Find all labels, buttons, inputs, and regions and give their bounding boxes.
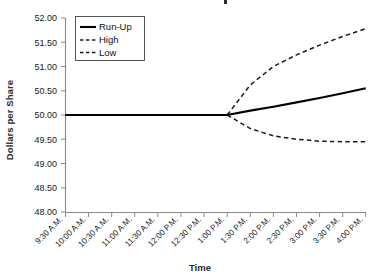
x-tick-labels: 9:30 A.M. 10:00 A.M. 10:30 A.M. 11:00 A.… [34,215,365,249]
chart-container: Dollars per Share 52.00 51.50 51.00 50.5… [0,0,374,280]
y-tick-label: 49.50 [34,135,57,145]
y-axis: 52.00 51.50 51.00 50.50 50.00 49.50 49.0… [34,13,65,217]
y-tick-labels: 52.00 51.50 51.00 50.50 50.00 49.50 49.0… [34,13,57,217]
x-axis-title-text: Time [189,262,211,273]
series-line-low [66,115,366,142]
line-chart: Dollars per Share 52.00 51.50 51.00 50.5… [0,0,374,280]
title-remnant [224,0,227,4]
y-tick-label: 52.00 [34,13,57,23]
y-tick-label: 48.50 [34,183,57,193]
legend-label-high: High [99,34,119,45]
x-axis: 9:30 A.M. 10:00 A.M. 10:30 A.M. 11:00 A.… [34,213,366,274]
legend-label-low: Low [99,47,117,58]
y-tick-label: 48.00 [34,207,57,217]
series-line-run-up [66,88,366,115]
y-tick-marks [61,18,66,212]
legend: Run-Up High Low [76,17,145,61]
legend-label-run-up: Run-Up [99,21,132,32]
y-tick-label: 51.00 [34,62,57,72]
y-tick-label: 51.50 [34,38,57,48]
y-tick-label: 50.00 [34,110,57,120]
y-axis-title: Dollars per Share [4,80,15,160]
x-tick-marks [66,213,366,218]
y-tick-label: 49.00 [34,159,57,169]
y-axis-title-text: Dollars per Share [4,80,15,160]
y-tick-label: 50.50 [34,86,57,96]
